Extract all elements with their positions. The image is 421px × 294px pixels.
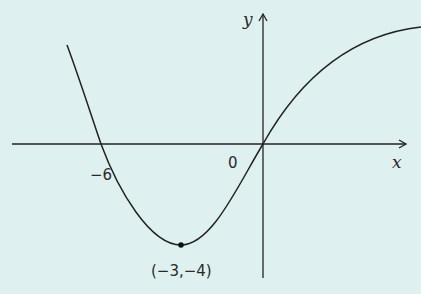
min-point-label: (−3,−4)	[151, 262, 212, 280]
graph: y x 0 −6 (−3,−4)	[0, 0, 421, 294]
minimum-point	[178, 242, 184, 248]
origin-label: 0	[228, 154, 238, 172]
y-label: y	[242, 9, 253, 29]
curve	[67, 27, 421, 245]
tick-neg6: −6	[90, 166, 112, 184]
x-label: x	[392, 152, 402, 172]
